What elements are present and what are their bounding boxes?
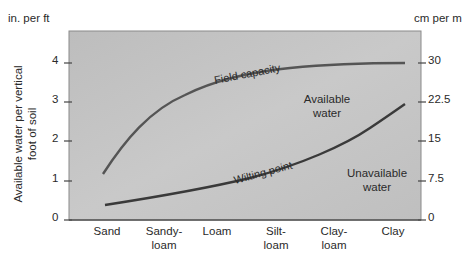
category-line: Clay- bbox=[304, 224, 364, 238]
left-tick-2: 2 bbox=[52, 132, 58, 144]
left-axis-unit: in. per ft bbox=[8, 12, 50, 24]
region-label-line: Available bbox=[282, 92, 372, 106]
region-label-line: Unavailable bbox=[332, 166, 422, 180]
right-tick-30: 30 bbox=[428, 54, 441, 66]
available-water-label: Available water bbox=[282, 92, 372, 120]
category-sand: Sand bbox=[77, 224, 137, 238]
left-tick-3: 3 bbox=[52, 93, 58, 105]
category-line: Clay bbox=[363, 224, 423, 238]
right-tick-7-5: 7.5 bbox=[428, 172, 444, 184]
category-loam: Loam bbox=[187, 224, 247, 238]
right-axis-unit: cm per m bbox=[414, 12, 462, 24]
left-tick-4: 4 bbox=[52, 54, 58, 66]
right-tick-22-5: 22.5 bbox=[428, 93, 450, 105]
left-tick-0: 0 bbox=[52, 211, 58, 223]
y-axis-title-line-2: foot of soil bbox=[25, 54, 39, 214]
category-clay: Clay bbox=[363, 224, 423, 238]
region-label-line: water bbox=[332, 180, 422, 194]
category-silt-loam: Silt- loam bbox=[246, 224, 306, 252]
y-axis-title: Available water per vertical foot of soi… bbox=[11, 54, 39, 214]
category-line: Sand bbox=[77, 224, 137, 238]
category-line: Sandy- bbox=[134, 224, 194, 238]
right-tick-15: 15 bbox=[428, 132, 441, 144]
y-axis-title-line-1: Available water per vertical bbox=[11, 54, 25, 214]
category-line: Silt- bbox=[246, 224, 306, 238]
unavailable-water-label: Unavailable water bbox=[332, 166, 422, 194]
category-sandy-loam: Sandy- loam bbox=[134, 224, 194, 252]
right-tick-0: 0 bbox=[428, 211, 434, 223]
left-tick-1: 1 bbox=[52, 172, 58, 184]
category-clay-loam: Clay- loam bbox=[304, 224, 364, 252]
category-line: loam bbox=[134, 238, 194, 252]
category-line: loam bbox=[246, 238, 306, 252]
category-line: Loam bbox=[187, 224, 247, 238]
category-line: loam bbox=[304, 238, 364, 252]
region-label-line: water bbox=[282, 106, 372, 120]
